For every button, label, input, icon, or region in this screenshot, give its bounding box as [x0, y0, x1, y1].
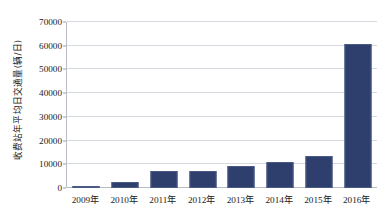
x-axis-tick-label: 2009年 [72, 192, 99, 206]
x-axis-tick-labels: 2009年2010年2011年2012年2013年2014年2015年2016年 [66, 190, 376, 212]
plot-area [66, 22, 377, 188]
y-axis-tick-labels: 010000200003000040000500006000070000 [24, 0, 66, 219]
x-axis-tick-label: 2015年 [304, 192, 331, 206]
x-axis-tick-label: 2012年 [188, 192, 215, 206]
x-axis-tick-label: 2014年 [265, 192, 292, 206]
y-axis-tick-label: 30000 [39, 112, 62, 122]
bar-slot [300, 22, 339, 188]
y-axis-tick-label: 10000 [39, 159, 62, 169]
bar[interactable] [150, 171, 177, 188]
bar-slot [183, 22, 222, 188]
bars-layer [67, 22, 377, 188]
bar[interactable] [344, 44, 371, 188]
bar[interactable] [267, 162, 294, 188]
y-axis-tick-label: 70000 [39, 17, 62, 27]
bar-slot [106, 22, 145, 188]
y-axis-title-text: 收费站年平均日交通量(辆/日) [11, 40, 23, 161]
y-axis-tick-label: 40000 [39, 88, 62, 98]
x-axis-tick-label: 2010年 [110, 192, 137, 206]
bar[interactable] [189, 171, 216, 188]
bar[interactable] [112, 182, 139, 188]
bar-slot [222, 22, 261, 188]
y-axis-tick-label: 0 [57, 183, 62, 193]
y-axis-tick-label: 60000 [39, 41, 62, 51]
bar[interactable] [73, 186, 100, 188]
bar-slot [261, 22, 300, 188]
bar-chart: 收费站年平均日交通量(辆/日) 010000200003000040000500… [0, 0, 382, 219]
x-axis-tick-label: 2013年 [227, 192, 254, 206]
bar[interactable] [305, 156, 332, 188]
bar-slot [145, 22, 184, 188]
bar-slot [338, 22, 377, 188]
x-axis-tick-label: 2016年 [343, 192, 370, 206]
y-axis-tick-label: 50000 [39, 64, 62, 74]
bar-slot [67, 22, 106, 188]
x-axis-tick-label: 2011年 [149, 192, 176, 206]
y-axis-tick-label: 20000 [39, 136, 62, 146]
bar[interactable] [228, 166, 255, 188]
